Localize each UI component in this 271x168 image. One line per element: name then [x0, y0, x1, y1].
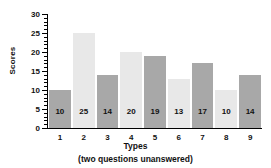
bar: 20: [120, 52, 142, 128]
y-axis-minor-tick: [44, 29, 48, 30]
y-axis-label: Scores: [8, 31, 17, 91]
chart-title-clipped: [0, 0, 271, 3]
y-axis-major-tick: [42, 14, 48, 15]
plot-area: 051015202530 102514201913171014 12345678…: [48, 14, 262, 128]
y-axis-minor-tick: [44, 60, 48, 61]
y-axis-minor-tick: [44, 22, 48, 23]
bar: 19: [144, 56, 166, 128]
y-axis-tick-label: 0: [36, 124, 40, 133]
y-axis-minor-tick: [44, 94, 48, 95]
bar-value-label: 13: [168, 107, 190, 116]
bar: 13: [168, 79, 190, 128]
x-axis-line: [47, 128, 262, 129]
y-axis-major-tick: [42, 52, 48, 53]
y-axis-minor-tick: [44, 63, 48, 64]
y-axis-tick-label: 10: [31, 86, 40, 95]
y-axis-minor-tick: [44, 25, 48, 26]
bar-value-label: 10: [215, 107, 237, 116]
bar: 17: [192, 63, 214, 128]
bar: 10: [49, 90, 71, 128]
y-axis-minor-tick: [44, 48, 48, 49]
bar-value-label: 17: [192, 107, 214, 116]
y-axis-minor-tick: [44, 79, 48, 80]
bar-value-label: 10: [49, 107, 71, 116]
x-axis-label: Types: [0, 141, 271, 151]
bar-value-label: 14: [239, 107, 261, 116]
bar-value-label: 20: [120, 107, 142, 116]
y-axis-minor-tick: [44, 56, 48, 57]
y-axis-tick-label: 25: [31, 29, 40, 38]
bar: 10: [215, 90, 237, 128]
y-axis-minor-tick: [44, 82, 48, 83]
y-axis-minor-tick: [44, 105, 48, 106]
y-axis-minor-tick: [44, 75, 48, 76]
bar: 25: [73, 33, 95, 128]
bar: 14: [239, 75, 261, 128]
y-axis-minor-tick: [44, 101, 48, 102]
y-axis-tick-label: 15: [31, 67, 40, 76]
y-axis-minor-tick: [44, 117, 48, 118]
bar-value-label: 14: [97, 107, 119, 116]
y-axis-minor-tick: [44, 124, 48, 125]
y-axis-tick-label: 20: [31, 48, 40, 57]
bar-value-label: 25: [73, 107, 95, 116]
y-axis-major-tick: [42, 90, 48, 91]
y-axis-minor-tick: [44, 44, 48, 45]
y-axis-minor-tick: [44, 67, 48, 68]
y-axis-minor-tick: [44, 41, 48, 42]
x-axis-sublabel: (two questions unanswered): [0, 154, 271, 164]
y-axis-minor-tick: [44, 98, 48, 99]
bar-chart-figure: Scores 051015202530 102514201913171014 1…: [0, 0, 271, 168]
y-axis-major-tick: [42, 128, 48, 129]
y-axis-minor-tick: [44, 120, 48, 121]
y-axis-minor-tick: [44, 18, 48, 19]
bar-value-label: 19: [144, 107, 166, 116]
y-axis-minor-tick: [44, 113, 48, 114]
y-axis-tick-label: 30: [31, 10, 40, 19]
y-axis-tick-label: 5: [36, 105, 40, 114]
y-axis-minor-tick: [44, 37, 48, 38]
y-axis-major-tick: [42, 109, 48, 110]
y-axis-major-tick: [42, 71, 48, 72]
y-axis-minor-tick: [44, 86, 48, 87]
y-axis-major-tick: [42, 33, 48, 34]
bar: 14: [97, 75, 119, 128]
